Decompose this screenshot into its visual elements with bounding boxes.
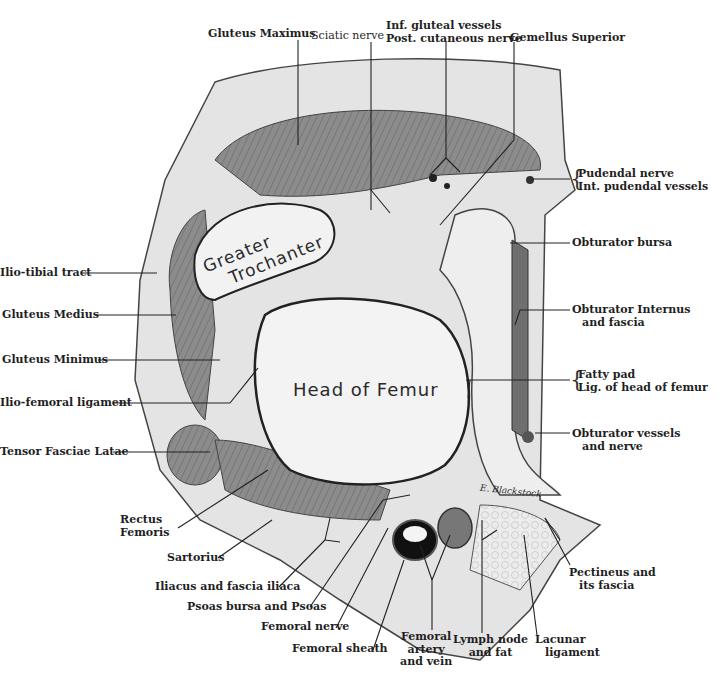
femoral-vein-shape — [438, 508, 472, 548]
label-ilio-tibial-tract: Ilio-tibial tract — [0, 267, 91, 280]
label-line: Femoral — [400, 631, 452, 644]
label-pudendal: Pudendal nerve Int. pudendal vessels — [578, 168, 708, 193]
label-lymph-node: Lymph node and fat — [453, 634, 528, 659]
label-fatty-pad: Fatty pad Lig. of head of femur — [578, 369, 708, 394]
label-line: Int. pudendal vessels — [578, 181, 708, 194]
label-sartorius: Sartorius — [167, 552, 224, 565]
label-line: ligament — [535, 647, 600, 660]
label-gemellus-superior: Gemellus Superior — [510, 32, 625, 45]
label-gluteus-medius: Gluteus Medius — [2, 309, 99, 322]
label-line: Sciatic nerve — [311, 30, 384, 43]
label-line: its fascia — [569, 580, 656, 593]
label-line: Femoral sheath — [292, 643, 388, 656]
label-line: Rectus — [120, 514, 169, 527]
label-line: Inf. gluteal vessels — [386, 20, 522, 33]
label-sciatic-nerve: Sciatic nerve — [311, 30, 384, 43]
label-line: Gluteus Minimus — [2, 354, 108, 367]
label-line: Obturator vessels — [572, 428, 680, 441]
label-line: Gluteus Maximus — [208, 28, 316, 41]
label-line: Gluteus Medius — [2, 309, 99, 322]
label-gluteus-maximus: Gluteus Maximus — [208, 28, 316, 41]
label-line: Femoris — [120, 527, 169, 540]
label-femoral-nerve: Femoral nerve — [261, 621, 349, 634]
label-ilio-femoral-ligament: Ilio-femoral ligament — [0, 397, 132, 410]
label-line: and vein — [400, 656, 452, 669]
label-line: Gemellus Superior — [510, 32, 625, 45]
label-lacunar-ligament: Lacunar ligament — [535, 634, 600, 659]
label-tensor-fasciae-latae: Tensor Fasciae Latae — [0, 446, 129, 459]
label-line: Fatty pad — [578, 369, 708, 382]
label-line: Femoral nerve — [261, 621, 349, 634]
label-rectus-femoris: Rectus Femoris — [120, 514, 169, 539]
label-pectineus: Pectineus and its fascia — [569, 567, 656, 592]
label-line: and fat — [453, 647, 528, 660]
label-obturator-bursa: Obturator bursa — [572, 237, 672, 250]
label-gluteus-minimus: Gluteus Minimus — [2, 354, 108, 367]
label-line: Lacunar — [535, 634, 600, 647]
label-line: Lymph node — [453, 634, 528, 647]
label-line: Iliacus and fascia iliaca — [155, 581, 300, 594]
obturator-internus-shape — [512, 240, 528, 440]
label-line: Psoas bursa and Psoas — [187, 601, 326, 614]
label-line: Obturator Internus — [572, 304, 691, 317]
head-of-femur-label: Head of Femur — [293, 379, 439, 400]
label-line: Pudendal nerve — [578, 168, 708, 181]
label-line: Sartorius — [167, 552, 224, 565]
label-line: Post. cutaneous nerve — [386, 33, 522, 46]
label-line: and fascia — [572, 317, 691, 330]
label-femoral-sheath: Femoral sheath — [292, 643, 388, 656]
label-iliacus: Iliacus and fascia iliaca — [155, 581, 300, 594]
label-line: and nerve — [572, 441, 680, 454]
label-inf-gluteal-vessels: Inf. gluteal vessels Post. cutaneous ner… — [386, 20, 522, 45]
label-line: Ilio-tibial tract — [0, 267, 91, 280]
label-obturator-vessels: Obturator vessels and nerve — [572, 428, 680, 453]
label-line: Lig. of head of femur — [578, 382, 708, 395]
tensor-fasciae-latae-shape — [167, 425, 223, 485]
label-psoas: Psoas bursa and Psoas — [187, 601, 326, 614]
label-femoral-artery-vein: Femoral artery and vein — [400, 631, 452, 669]
label-line: Pectineus and — [569, 567, 656, 580]
label-obturator-internus: Obturator Internus and fascia — [572, 304, 691, 329]
label-line: Ilio-femoral ligament — [0, 397, 132, 410]
label-line: Obturator bursa — [572, 237, 672, 250]
label-line: Tensor Fasciae Latae — [0, 446, 129, 459]
